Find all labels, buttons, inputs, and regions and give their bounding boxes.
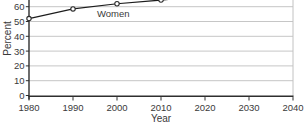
- x-tick-label-2030: 2030: [238, 102, 259, 113]
- y-tick-label-10: 10: [14, 75, 25, 86]
- x-tick-label-2000: 2000: [106, 102, 127, 113]
- x-tick-label-1980: 1980: [18, 102, 39, 113]
- chart-canvas: 1980199020002010202020302040 01020304050…: [0, 0, 307, 127]
- x-axis-title: Year: [151, 113, 172, 124]
- percent-by-year-line-chart: 1980199020002010202020302040 01020304050…: [0, 0, 307, 127]
- y-tick-label-50: 50: [14, 16, 25, 27]
- x-tick-label-2040: 2040: [282, 102, 303, 113]
- y-tick-label-20: 20: [14, 60, 25, 71]
- data-point-1980: [27, 16, 31, 20]
- y-axis-title: Percent: [2, 21, 13, 56]
- x-axis-ticks: 1980199020002010202020302040: [18, 97, 303, 112]
- series-label-women: Women: [97, 8, 130, 19]
- data-point-2010: [159, 0, 163, 2]
- y-tick-label-60: 60: [14, 1, 25, 12]
- data-point-2000: [115, 2, 119, 6]
- x-tick-label-2010: 2010: [150, 102, 171, 113]
- gridlines: [29, 0, 293, 97]
- y-tick-label-40: 40: [14, 31, 25, 42]
- data-point-1990: [71, 7, 75, 11]
- y-tick-label-0: 0: [19, 90, 24, 101]
- y-tick-label-30: 30: [14, 46, 25, 57]
- axes: [28, 0, 293, 100]
- x-tick-label-2020: 2020: [194, 102, 215, 113]
- y-axis-ticks: 0102030405060: [14, 1, 29, 101]
- x-tick-label-1990: 1990: [62, 102, 83, 113]
